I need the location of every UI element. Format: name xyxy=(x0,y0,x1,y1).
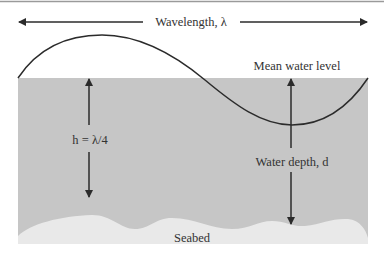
wavelength-label: Wavelength, λ xyxy=(155,15,227,29)
mean-water-level-label: Mean water level xyxy=(254,59,341,73)
water-depth-label: Water depth, d xyxy=(256,155,330,169)
wave-diagram: Wavelength, λ Mean water level h = λ/4 W… xyxy=(0,0,384,258)
seabed-label: Seabed xyxy=(174,231,211,245)
h-equation-label: h = λ/4 xyxy=(72,133,108,147)
